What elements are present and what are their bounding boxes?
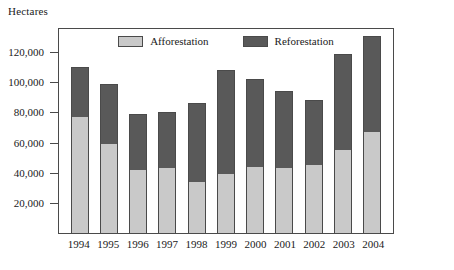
y-axis-tick-mark — [50, 52, 58, 53]
bar-segment-reforestation[interactable] — [334, 54, 352, 150]
y-axis-tick-mark — [50, 143, 58, 144]
bar-stack[interactable] — [363, 36, 381, 233]
y-axis-tick-mark — [50, 82, 58, 83]
bar-segment-afforestation[interactable] — [188, 182, 206, 233]
bar-group[interactable] — [71, 29, 89, 233]
bar-group[interactable] — [305, 29, 323, 233]
x-axis-label-text: 1998 — [182, 238, 212, 250]
x-axis-label-text: 2000 — [240, 238, 270, 250]
bar-segment-afforestation[interactable] — [246, 167, 264, 233]
x-axis-label-text: 2003 — [329, 238, 359, 250]
bar-group[interactable] — [246, 29, 264, 233]
bar-segment-reforestation[interactable] — [71, 67, 89, 117]
x-axis-label-text: 2004 — [358, 238, 388, 250]
plot-area: AfforestationReforestation — [58, 28, 394, 234]
x-axis-label: 2002 — [305, 238, 323, 258]
x-axis-label-text: 1995 — [93, 238, 123, 250]
bar-group[interactable] — [217, 29, 235, 233]
bar-segment-reforestation[interactable] — [305, 100, 323, 165]
bar-segment-reforestation[interactable] — [275, 91, 293, 168]
x-axis-label-text: 1996 — [123, 238, 153, 250]
bar-group[interactable] — [129, 29, 147, 233]
bar-segment-reforestation[interactable] — [217, 70, 235, 174]
bar-segment-afforestation[interactable] — [363, 132, 381, 233]
bar-group[interactable] — [188, 29, 206, 233]
x-axis-label: 2000 — [246, 238, 264, 258]
x-axis-label: 2004 — [364, 238, 382, 258]
bar-segment-afforestation[interactable] — [71, 117, 89, 233]
x-axis-label-text: 1997 — [152, 238, 182, 250]
x-axis-label: 1998 — [188, 238, 206, 258]
y-axis-tick-label: 100,000 — [8, 76, 44, 88]
bar-group[interactable] — [363, 29, 381, 233]
x-axis-label: 2001 — [276, 238, 294, 258]
bar-group[interactable] — [275, 29, 293, 233]
bar-segment-reforestation[interactable] — [246, 79, 264, 166]
bar-stack[interactable] — [100, 84, 118, 233]
bar-segment-reforestation[interactable] — [363, 36, 381, 132]
x-axis-label-text: 1994 — [64, 238, 94, 250]
bar-stack[interactable] — [217, 70, 235, 233]
bar-segment-afforestation[interactable] — [334, 150, 352, 233]
y-axis-tick-label: 20,000 — [14, 197, 44, 209]
stacked-bar-chart: Hectares 20,00040,00060,00080,000100,000… — [0, 0, 454, 270]
bar-stack[interactable] — [188, 103, 206, 233]
bar-segment-afforestation[interactable] — [275, 168, 293, 233]
bar-segment-reforestation[interactable] — [188, 103, 206, 181]
bar-segment-reforestation[interactable] — [100, 84, 118, 144]
bar-stack[interactable] — [158, 112, 176, 233]
y-axis-tick-mark — [50, 173, 58, 174]
y-axis-tick-label: 80,000 — [14, 106, 44, 118]
bars-container — [59, 29, 393, 233]
y-axis-tick-mark — [50, 112, 58, 113]
x-axis-label: 1995 — [99, 238, 117, 258]
bar-segment-reforestation[interactable] — [158, 112, 176, 168]
bar-segment-reforestation[interactable] — [129, 114, 147, 170]
bar-group[interactable] — [334, 29, 352, 233]
x-axis-label: 1997 — [158, 238, 176, 258]
bar-segment-afforestation[interactable] — [217, 174, 235, 233]
bar-segment-afforestation[interactable] — [305, 165, 323, 233]
x-axis-label: 1999 — [217, 238, 235, 258]
y-axis-title: Hectares — [8, 5, 48, 17]
x-axis-label-text: 2002 — [299, 238, 329, 250]
bar-segment-afforestation[interactable] — [158, 168, 176, 233]
bar-group[interactable] — [158, 29, 176, 233]
x-axis-label: 2003 — [335, 238, 353, 258]
bar-stack[interactable] — [246, 79, 264, 233]
bar-group[interactable] — [100, 29, 118, 233]
y-axis-tick-label: 120,000 — [8, 46, 44, 58]
bar-stack[interactable] — [305, 100, 323, 233]
y-axis-tick-label: 60,000 — [14, 137, 44, 149]
x-axis-label: 1996 — [129, 238, 147, 258]
bar-stack[interactable] — [129, 114, 147, 233]
x-axis-label-text: 1999 — [211, 238, 241, 250]
x-axis-label-text: 2001 — [270, 238, 300, 250]
y-axis-tick-mark — [50, 203, 58, 204]
bar-stack[interactable] — [71, 67, 89, 233]
x-axis-label: 1994 — [70, 238, 88, 258]
bar-stack[interactable] — [334, 54, 352, 233]
bar-stack[interactable] — [275, 91, 293, 233]
bar-segment-afforestation[interactable] — [129, 170, 147, 233]
x-axis-labels: 1994199519961997199819992000200120022003… — [58, 238, 394, 258]
y-axis-tick-label: 40,000 — [14, 167, 44, 179]
bar-segment-afforestation[interactable] — [100, 144, 118, 233]
